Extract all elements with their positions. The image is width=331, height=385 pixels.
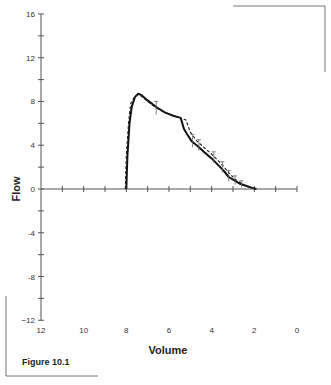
y-tick-label: 8 bbox=[31, 97, 36, 106]
y-tick-label: 0 bbox=[31, 185, 36, 194]
series-solid bbox=[126, 94, 256, 189]
y-tick-label: -4 bbox=[28, 229, 36, 238]
x-tick-label: 0 bbox=[295, 326, 300, 335]
frame-top-right bbox=[233, 6, 325, 72]
data-series bbox=[125, 94, 256, 189]
frame-decoration bbox=[6, 6, 325, 376]
x-tick-label: 12 bbox=[37, 326, 46, 335]
figure-caption: Figure 10.1 bbox=[22, 357, 70, 367]
y-tick-label: -8 bbox=[28, 273, 36, 282]
axes: 1612840-4-8−12121086420 bbox=[21, 10, 299, 335]
x-tick-label: 6 bbox=[167, 326, 172, 335]
y-axis-title: Flow bbox=[10, 176, 22, 201]
series-dashed bbox=[125, 95, 254, 189]
y-tick-label: 4 bbox=[31, 141, 36, 150]
x-tick-label: 8 bbox=[124, 326, 129, 335]
x-tick-label: 10 bbox=[79, 326, 88, 335]
y-tick-label: 16 bbox=[26, 10, 35, 19]
x-tick-label: 2 bbox=[252, 326, 257, 335]
x-axis-title: Volume bbox=[149, 344, 188, 356]
flow-volume-chart: 1612840-4-8−12121086420 Flow Volume Figu… bbox=[0, 0, 331, 385]
y-tick-label: −12 bbox=[21, 316, 35, 325]
y-tick-label: 12 bbox=[26, 54, 35, 63]
x-tick-label: 4 bbox=[209, 326, 214, 335]
